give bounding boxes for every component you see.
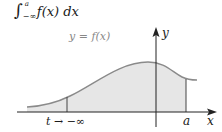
curve-label: y = f(x): [69, 30, 110, 43]
shaded-area: [27, 62, 186, 112]
a-label: a: [183, 114, 190, 128]
area-under-curve-diagram: [0, 0, 222, 132]
t-limit-label: t → −∞: [46, 115, 85, 128]
x-axis-label: x: [207, 114, 214, 128]
y-axis-label: y: [162, 26, 169, 40]
